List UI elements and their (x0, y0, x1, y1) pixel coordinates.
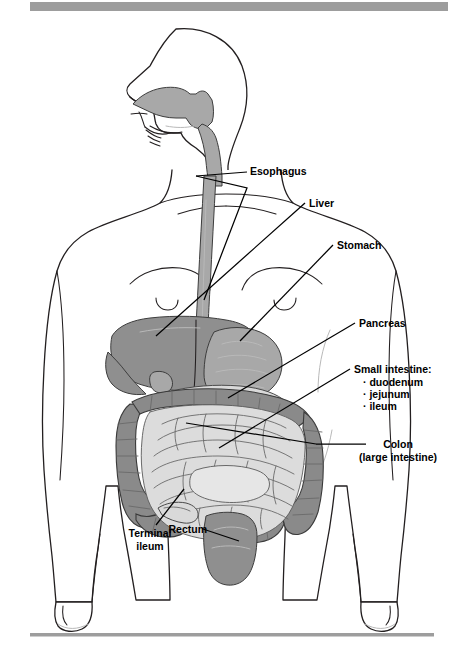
label-terminal-ileum-line1: Terminal (129, 527, 172, 539)
label-small-intestine-item-ileum: · ileum (363, 400, 397, 412)
label-pancreas: Pancreas (359, 317, 406, 329)
label-rectum: Rectum (168, 523, 207, 535)
label-terminal-ileum-line2: ileum (136, 540, 163, 552)
bottom-rule (30, 633, 434, 637)
diagram-canvas: Esophagus Liver Stomach Pancreas Small i… (0, 0, 452, 666)
label-colon: Colon (383, 438, 413, 450)
label-esophagus: Esophagus (250, 165, 307, 177)
label-small-intestine-item-duodenum: · duodenum (363, 376, 423, 388)
label-small-intestine-item-jejunum: · jejunum (363, 388, 410, 400)
top-rule (30, 2, 448, 11)
label-small-intestine-heading: Small intestine: (354, 363, 432, 375)
rectum-organ (204, 512, 257, 585)
label-colon-subtitle: (large intestine) (359, 451, 437, 463)
label-stomach: Stomach (337, 239, 381, 251)
label-liver: Liver (309, 197, 334, 209)
